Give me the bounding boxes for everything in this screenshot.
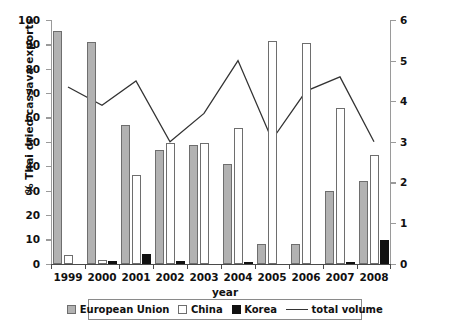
y-axis-left-tick-label: 100 [0, 15, 40, 26]
square-black-icon [232, 305, 241, 314]
y-axis-left-tick [46, 93, 52, 94]
y-axis-left-tick [46, 117, 52, 118]
x-axis-tick [153, 264, 154, 269]
y-axis-right-tick-label: 4 [400, 96, 430, 107]
x-axis-tick [323, 264, 324, 269]
bar-cn-2005 [268, 41, 277, 264]
y-axis-left-tick-label: 80 [0, 64, 40, 75]
y-axis-left-tick [46, 44, 52, 45]
bar-eu-2008 [359, 181, 368, 264]
x-axis-tick [289, 264, 290, 269]
square-white-icon [178, 305, 187, 314]
y-axis-right-tick-label: 2 [400, 177, 430, 188]
bar-eu-2005 [257, 244, 266, 263]
bar-cn-2003 [200, 143, 209, 264]
bar-cn-2007 [336, 108, 345, 264]
bar-cn-2006 [302, 43, 311, 263]
bar-eu-2006 [291, 244, 300, 263]
y-axis-left-tick-label: 90 [0, 39, 40, 50]
y-axis-left-tick-label: 60 [0, 112, 40, 123]
bar-cn-2004 [234, 128, 243, 263]
y-axis-right-tick-label: 3 [400, 137, 430, 148]
bar-cn-2000 [98, 260, 107, 264]
y-axis-right-tick-label: 0 [400, 259, 430, 270]
y-axis-left-tick [46, 215, 52, 216]
y-axis-left-tick-label: 50 [0, 137, 40, 148]
y-axis-right-tick [390, 142, 396, 143]
y-axis-left-tick-label: 0 [0, 259, 40, 270]
x-axis-tick [357, 264, 358, 269]
bar-kr-2002 [176, 261, 185, 263]
y-axis-left-tick-label: 70 [0, 88, 40, 99]
bar-eu-2007 [325, 191, 334, 264]
chart-legend: European Union China Korea total volume [88, 299, 362, 320]
legend-item-korea: Korea [232, 304, 277, 315]
bar-eu-2000 [87, 42, 96, 264]
x-axis-tick [51, 264, 52, 269]
square-gray-icon [67, 305, 76, 314]
y-axis-left-tick-label: 30 [0, 186, 40, 197]
bar-eu-2001 [121, 125, 130, 264]
line-icon [286, 309, 308, 310]
bar-eu-2003 [189, 145, 198, 263]
y-axis-left-tick-label: 40 [0, 161, 40, 172]
bar-cn-2002 [166, 143, 175, 264]
bar-eu-2004 [223, 164, 232, 264]
y-axis-left-tick [46, 20, 52, 21]
y-axis-left-tick [46, 142, 52, 143]
y-axis-right-tick-label: 1 [400, 218, 430, 229]
x-axis-tick [255, 264, 256, 269]
legend-label-china: China [191, 304, 223, 315]
plot-area: 0102030405060708090100012345619992000200… [51, 20, 391, 265]
legend-label-korea: Korea [244, 304, 277, 315]
y-axis-right-tick [390, 20, 396, 21]
y-axis-right-tick [390, 182, 396, 183]
bar-cn-2001 [132, 175, 141, 264]
legend-label-total-volume: total volume [312, 304, 383, 315]
y-axis-right-tick [390, 61, 396, 62]
x-axis-tick [221, 264, 222, 269]
bar-kr-2000 [108, 261, 117, 263]
x-axis-tick-label: 2008 [352, 272, 396, 283]
bar-eu-2002 [155, 150, 164, 263]
y-axis-right-tick-label: 6 [400, 15, 430, 26]
bar-kr-2007 [346, 262, 355, 264]
y-axis-right-tick-label: 5 [400, 56, 430, 67]
y-axis-left-tick-label: 10 [0, 234, 40, 245]
legend-item-china: China [178, 304, 222, 315]
bar-cn-2008 [370, 155, 379, 263]
bar-kr-2008 [380, 240, 389, 263]
y-axis-right-tick [390, 101, 396, 102]
legend-item-european-union: European Union [67, 304, 169, 315]
bar-kr-2001 [142, 254, 151, 264]
chart-figure: % Thai dried cassava exports tonnes, mil… [0, 0, 450, 327]
x-axis-tick [390, 264, 391, 269]
y-axis-right-tick [390, 223, 396, 224]
legend-item-total-volume: total volume [286, 304, 383, 315]
bar-cn-1999 [64, 255, 73, 264]
y-axis-left-tick [46, 166, 52, 167]
legend-label-european-union: European Union [80, 304, 170, 315]
y-axis-left-tick [46, 69, 52, 70]
bar-eu-1999 [53, 31, 62, 264]
y-axis-left-tick-label: 20 [0, 210, 40, 221]
bar-kr-2004 [244, 262, 253, 264]
x-axis-tick [119, 264, 120, 269]
x-axis-tick [187, 264, 188, 269]
y-axis-left-tick [46, 191, 52, 192]
x-axis-title: year [0, 286, 450, 298]
total-volume-line [68, 61, 374, 142]
y-axis-left-tick [46, 239, 52, 240]
x-axis-tick [85, 264, 86, 269]
